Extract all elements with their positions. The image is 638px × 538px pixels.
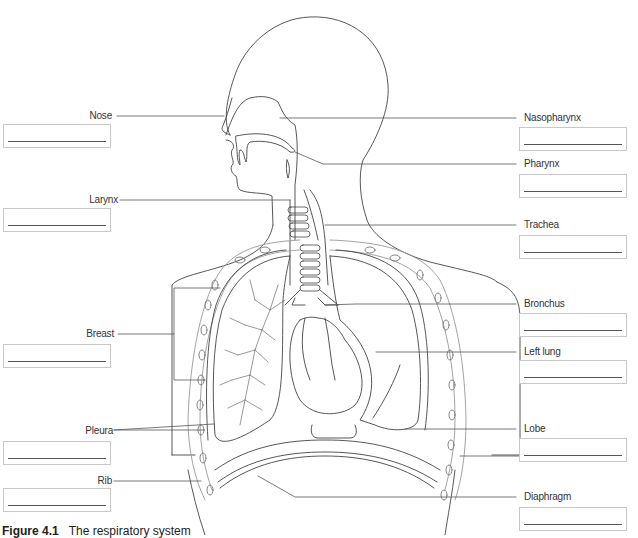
- label-nose: Nose: [89, 110, 112, 122]
- answer-box-left-lung[interactable]: [519, 360, 627, 384]
- label-breast: Breast: [86, 328, 114, 340]
- answer-box-larynx[interactable]: [3, 208, 111, 232]
- answer-line: [524, 377, 622, 378]
- label-trachea: Trachea: [524, 219, 559, 231]
- answer-line: [524, 524, 622, 525]
- answer-box-pleura[interactable]: [3, 441, 111, 465]
- answer-line: [524, 252, 622, 253]
- label-larynx: Larynx: [89, 194, 118, 206]
- answer-box-nasopharynx[interactable]: [519, 127, 627, 151]
- answer-line: [8, 225, 106, 226]
- answer-line: [524, 191, 622, 192]
- leader-diaphragm: [258, 476, 516, 497]
- label-pleura: Pleura: [85, 425, 113, 437]
- figure-number: Figure 4.1: [2, 524, 59, 538]
- answer-line: [524, 330, 622, 331]
- answer-box-pharynx[interactable]: [519, 174, 627, 198]
- answer-box-breast[interactable]: [3, 344, 111, 368]
- figure-title: The respiratory system: [69, 524, 191, 538]
- label-nasopharynx: Nasopharynx: [524, 112, 581, 124]
- figure-caption: Figure 4.1The respiratory system: [2, 524, 191, 538]
- answer-line: [524, 455, 622, 456]
- leader-breast: [118, 288, 220, 334]
- label-bronchus: Bronchus: [524, 298, 565, 310]
- answer-box-diaphragm[interactable]: [519, 507, 627, 531]
- head-outline: [172, 17, 497, 455]
- leader-pleura-1: [114, 424, 214, 430]
- diaphragm: [215, 425, 440, 488]
- leader-breast-lower: [174, 334, 205, 380]
- label-pharynx: Pharynx: [524, 158, 559, 170]
- label-rib: Rib: [98, 475, 112, 487]
- label-lobe: Lobe: [524, 423, 545, 435]
- label-diaphragm: Diaphragm: [524, 491, 571, 503]
- answer-box-trachea[interactable]: [519, 235, 627, 259]
- answer-line: [8, 361, 106, 362]
- leader-pharynx: [295, 152, 516, 164]
- answer-box-bronchus[interactable]: [519, 313, 627, 337]
- answer-line: [8, 141, 106, 142]
- leader-bronchus: [325, 304, 516, 305]
- answer-box-nose[interactable]: [3, 124, 111, 148]
- answer-box-rib[interactable]: [3, 488, 111, 512]
- heart-and-bronchi: [285, 290, 362, 414]
- answer-line: [524, 144, 622, 145]
- answer-line: [8, 505, 106, 506]
- answer-box-lobe[interactable]: [519, 438, 627, 462]
- label-left-lung: Left lung: [524, 346, 561, 358]
- answer-line: [8, 458, 106, 459]
- right-lung: [207, 250, 290, 441]
